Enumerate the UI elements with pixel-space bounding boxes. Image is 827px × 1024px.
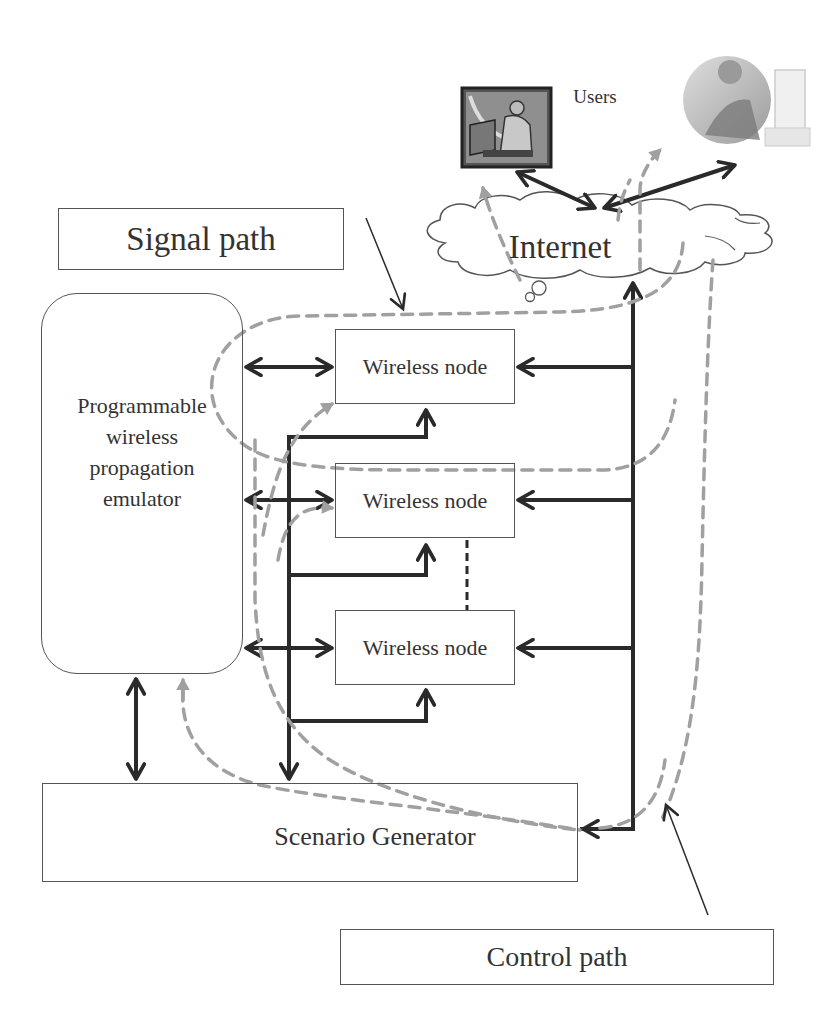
emulator-label-line: wireless	[77, 421, 207, 452]
user-at-computer-icon	[462, 88, 551, 167]
propagation-emulator-box: Programmable wireless propagation emulat…	[41, 293, 243, 674]
signal-path-pointer	[366, 218, 403, 309]
emulator-label: Programmable wireless propagation emulat…	[77, 390, 207, 514]
wireless-node-label: Wireless node	[363, 354, 487, 380]
control-path-label: Control path	[487, 941, 628, 973]
wireless-node-2: Wireless node	[335, 463, 515, 538]
control-path-pointer	[666, 805, 708, 915]
wireless-node-label: Wireless node	[363, 488, 487, 514]
scenario-generator-label: Scenario Generator	[274, 822, 475, 852]
wireless-node-label: Wireless node	[363, 635, 487, 661]
scenario-generator-box: Scenario Generator	[42, 783, 578, 882]
users-label: Users	[555, 82, 635, 112]
emulator-label-line: emulator	[77, 483, 207, 514]
internet-label: Internet	[470, 222, 650, 272]
signal-path-legend-box: Signal path	[58, 208, 344, 270]
user-at-computer-icon	[683, 56, 810, 146]
control-path-legend-box: Control path	[340, 929, 774, 985]
emulator-label-line: propagation	[77, 452, 207, 483]
wireless-node-3: Wireless node	[335, 610, 515, 685]
wireless-node-1: Wireless node	[335, 329, 515, 404]
emulator-label-line: Programmable	[77, 390, 207, 421]
signal-path-label: Signal path	[126, 221, 275, 258]
